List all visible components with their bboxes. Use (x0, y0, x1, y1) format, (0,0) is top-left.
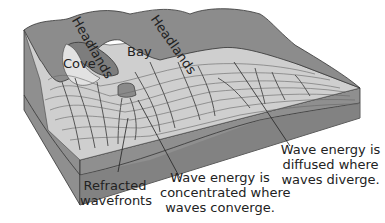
sea-stack (118, 83, 136, 97)
label-bay: Bay (127, 44, 152, 59)
label-wave-energy-diffused: Wave energy is diffused where waves dive… (278, 142, 383, 187)
label-cove: Cove (63, 56, 96, 71)
label-wave-energy-concentrated: Wave energy is concentrated where waves … (160, 170, 280, 215)
wave-refraction-diagram: Headlands Headlands Bay Cove Refracted w… (0, 0, 385, 223)
label-refracted-wavefronts: Refracted wavefronts (80, 178, 150, 208)
